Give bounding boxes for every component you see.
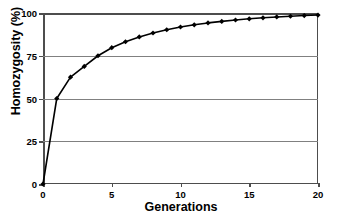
- x-tick-label-10: 10: [175, 189, 186, 200]
- homozygosity-chart: Homozygosity (%) 0255075100 05101520 Gen…: [0, 0, 339, 223]
- series-markers: [40, 12, 320, 186]
- y-axis-title: Homozygosity (%): [9, 0, 23, 131]
- y-tick-label-100: 100: [21, 8, 37, 19]
- plot-area: 0255075100 05101520: [43, 13, 318, 184]
- data-point-gen-9: [164, 27, 169, 32]
- data-point-gen-6: [123, 39, 128, 44]
- data-point-gen-7: [137, 34, 142, 39]
- x-tick-label-5: 5: [109, 189, 114, 200]
- series-line: [43, 15, 318, 184]
- data-point-gen-15: [247, 16, 252, 21]
- data-point-gen-8: [150, 30, 155, 35]
- data-point-gen-11: [192, 22, 197, 27]
- x-axis-title: Generations: [43, 200, 319, 214]
- data-point-gen-13: [219, 19, 224, 24]
- x-tick-label-20: 20: [313, 189, 324, 200]
- data-point-gen-12: [205, 20, 210, 25]
- data-point-gen-19: [302, 13, 307, 18]
- data-series-homozygosity: [43, 13, 318, 184]
- y-tick-label-0: 0: [32, 179, 37, 190]
- y-tick-label-50: 50: [26, 93, 37, 104]
- data-point-gen-18: [288, 14, 293, 19]
- data-point-gen-16: [260, 15, 265, 20]
- data-point-gen-10: [178, 24, 183, 29]
- y-tick-label-75: 75: [26, 50, 37, 61]
- x-tick-label-0: 0: [40, 189, 45, 200]
- y-tick-label-25: 25: [26, 136, 37, 147]
- x-tick-20: [318, 183, 320, 187]
- data-point-gen-0: [40, 181, 45, 186]
- data-point-gen-20: [315, 12, 320, 17]
- data-point-gen-17: [274, 14, 279, 19]
- x-tick-label-15: 15: [244, 189, 255, 200]
- data-point-gen-14: [233, 17, 238, 22]
